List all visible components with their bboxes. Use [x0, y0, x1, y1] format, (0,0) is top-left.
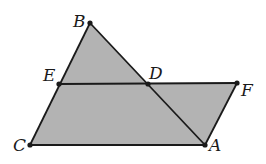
- label-a: A: [207, 135, 221, 155]
- point-e: [56, 81, 61, 86]
- label-e: E: [42, 65, 56, 85]
- label-d: D: [148, 63, 163, 83]
- label-b: B: [72, 11, 86, 31]
- point-c: [27, 142, 32, 147]
- geometry-diagram: B E D F C A: [0, 0, 266, 164]
- label-c: C: [13, 135, 26, 155]
- point-a: [202, 142, 207, 147]
- label-f: F: [240, 80, 254, 100]
- point-b: [87, 20, 92, 25]
- point-f: [234, 80, 239, 85]
